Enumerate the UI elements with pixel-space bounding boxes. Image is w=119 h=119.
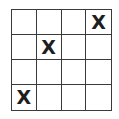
grid-cell[interactable]: [62, 10, 87, 35]
grid-cell[interactable]: [12, 60, 37, 85]
grid-cell[interactable]: X: [12, 85, 37, 110]
grid-cell[interactable]: [37, 10, 62, 35]
grid-cell[interactable]: [62, 35, 87, 60]
grid-cell[interactable]: [37, 85, 62, 110]
grid-cell[interactable]: [62, 85, 87, 110]
grid-cell[interactable]: [86, 35, 111, 60]
grid-cell[interactable]: [12, 10, 37, 35]
grid-cell[interactable]: [62, 60, 87, 85]
grid-cell[interactable]: [37, 60, 62, 85]
grid-cell[interactable]: [86, 60, 111, 85]
grid-cell[interactable]: X: [37, 35, 62, 60]
game-grid: X X X: [11, 9, 112, 111]
grid-cell[interactable]: X: [86, 10, 111, 35]
grid-cell[interactable]: [86, 85, 111, 110]
grid-cell[interactable]: [12, 35, 37, 60]
